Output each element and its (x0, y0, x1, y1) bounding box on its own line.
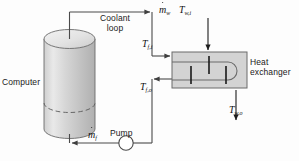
symbol-base-with-dot: m (159, 5, 166, 15)
water-mass-flow-rate-label: mw (159, 5, 170, 18)
heat-exchanger-label: Heat exchanger (250, 58, 291, 77)
symbol-base: m (159, 4, 166, 15)
diagram-canvas: Computer Coolant loop Heat exchanger Pum… (0, 0, 299, 161)
symbol-subscript: f,i (148, 44, 153, 50)
water-inlet-temperature-label: Tw,i (179, 5, 191, 18)
symbol-subscript: w (166, 10, 170, 16)
cylinder-body (44, 39, 95, 139)
computer-cylinder (44, 30, 95, 139)
fluid-inlet-temperature-label: Tf,i (142, 39, 152, 52)
water-outlet-temperature-label: Tw,o (229, 105, 243, 118)
symbol-base: m (88, 129, 95, 140)
fluid-mass-flow-rate-label: mf (88, 130, 97, 143)
overdot-accent (91, 127, 93, 129)
symbol-subscript: f,o (146, 87, 152, 93)
heat-exchanger-unit (172, 52, 247, 88)
computer-label: Computer (2, 78, 40, 88)
overdot-accent (162, 2, 164, 4)
symbol-subscript: f (95, 135, 97, 141)
pump-label: Pump (110, 129, 133, 139)
schematic-drawing (0, 0, 299, 161)
coolant-loop-label: Coolant loop (100, 14, 130, 33)
symbol-base-with-dot: m (88, 130, 95, 140)
symbol-subscript: w,o (235, 110, 243, 116)
fluid-outlet-temperature-label: Tf,o (140, 82, 152, 95)
symbol-subscript: w,i (185, 10, 192, 16)
